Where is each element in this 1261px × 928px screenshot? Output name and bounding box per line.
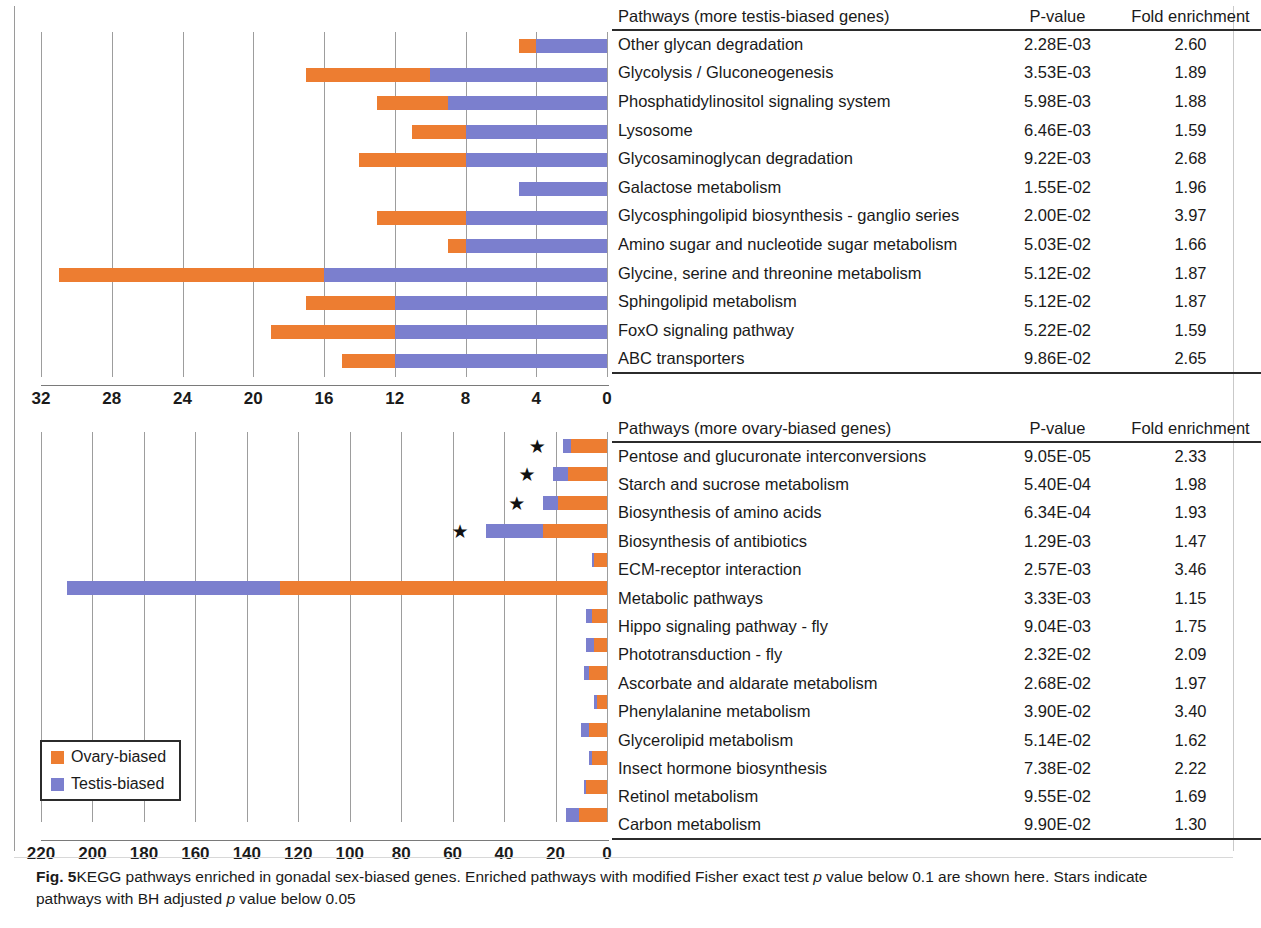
pathway-name-cell: FoxO signaling pathway xyxy=(612,316,995,345)
pathway-name-cell: Metabolic pathways xyxy=(612,584,995,612)
axis-tick-label: 20 xyxy=(244,389,263,409)
table-row: Galactose metabolism1.55E-021.96 xyxy=(612,173,1261,202)
ovary-biased-bar-segment xyxy=(589,723,607,737)
pvalue-cell: 5.40E-04 xyxy=(995,470,1118,498)
table-row: Biosynthesis of amino acids6.34E-041.93 xyxy=(612,499,1261,527)
pathway-name-cell: ABC transporters xyxy=(612,345,995,374)
pathway-name-cell: Phenylalanine metabolism xyxy=(612,698,995,726)
bar-row xyxy=(0,638,612,652)
fold-enrichment-cell: 2.68 xyxy=(1118,144,1261,173)
bar-row xyxy=(0,182,612,196)
legend-label: Ovary-biased xyxy=(71,748,166,766)
table-row: Retinol metabolism9.55E-021.69 xyxy=(612,783,1261,811)
caption-divider xyxy=(14,857,1233,858)
ovary-biased-bar-segment xyxy=(579,808,607,822)
ovary-biased-bar-segment xyxy=(543,524,607,538)
axis-tick-label: 220 xyxy=(27,844,55,864)
pathway-name-cell: Other glycan degradation xyxy=(612,30,995,59)
bar-row xyxy=(0,268,612,282)
table-row: Ascorbate and aldarate metabolism2.68E-0… xyxy=(612,669,1261,697)
ovary-biased-bar-segment xyxy=(448,239,466,253)
axis-tick-label: 180 xyxy=(130,844,158,864)
axis-tick-label: 8 xyxy=(461,389,470,409)
bar-row xyxy=(0,125,612,139)
table-row: Metabolic pathways3.33E-031.15 xyxy=(612,584,1261,612)
table-row: FoxO signaling pathway5.22E-021.59 xyxy=(612,316,1261,345)
caption-italic-p-2: p xyxy=(226,890,235,907)
fold-enrichment-cell: 3.40 xyxy=(1118,698,1261,726)
pathway-name-cell: Galactose metabolism xyxy=(612,173,995,202)
bottom-table-wrapper: Pathways (more ovary-biased genes) P-val… xyxy=(612,418,1233,840)
axis-tick-label: 140 xyxy=(233,844,261,864)
testis-biased-bar-segment xyxy=(519,182,607,196)
ovary-biased-bar-segment xyxy=(306,296,394,310)
caption-text-1: KEGG pathways enriched in gonadal sex-bi… xyxy=(76,868,813,885)
bar-row xyxy=(0,354,612,368)
fold-enrichment-cell: 1.15 xyxy=(1118,584,1261,612)
table-row: Phosphatidylinositol signaling system5.9… xyxy=(612,87,1261,116)
pvalue-cell: 2.00E-02 xyxy=(995,202,1118,231)
table-row: Insect hormone biosynthesis7.38E-022.22 xyxy=(612,754,1261,782)
testis-biased-bar-segment xyxy=(563,439,571,453)
table-row: Glycerolipid metabolism5.14E-021.62 xyxy=(612,726,1261,754)
pathway-name-cell: Amino sugar and nucleotide sugar metabol… xyxy=(612,230,995,259)
fold-enrichment-cell: 1.87 xyxy=(1118,259,1261,288)
fold-enrichment-cell: 1.66 xyxy=(1118,230,1261,259)
testis-biased-bar-segment xyxy=(581,723,589,737)
pathway-name-cell: ECM-receptor interaction xyxy=(612,556,995,584)
pvalue-cell: 2.32E-02 xyxy=(995,641,1118,669)
top-pathway-table: Pathways (more testis-biased genes) P-va… xyxy=(612,6,1261,374)
axis-tick-label: 0 xyxy=(602,844,611,864)
testis-biased-bar-segment xyxy=(486,524,543,538)
fold-enrichment-cell: 1.69 xyxy=(1118,783,1261,811)
testis-biased-bar-segment xyxy=(586,609,591,623)
testis-biased-bar-segment xyxy=(592,553,595,567)
legend-label: Testis-biased xyxy=(71,775,164,793)
top-axis-tick-labels: 322824201612840 xyxy=(0,389,612,415)
col-header-fold: Fold enrichment xyxy=(1118,418,1261,442)
fold-enrichment-cell: 1.30 xyxy=(1118,811,1261,839)
fold-enrichment-cell: 3.46 xyxy=(1118,556,1261,584)
testis-biased-bar-segment xyxy=(566,808,579,822)
axis-tick-label: 60 xyxy=(443,844,462,864)
x-axis-line xyxy=(41,385,609,386)
ovary-biased-bar-segment xyxy=(589,666,607,680)
pvalue-cell: 2.68E-02 xyxy=(995,669,1118,697)
fold-enrichment-cell: 1.59 xyxy=(1118,116,1261,145)
bar-row xyxy=(0,211,612,225)
ovary-biased-bar-segment xyxy=(558,496,607,510)
bar-row xyxy=(0,609,612,623)
col-header-pvalue: P-value xyxy=(995,418,1118,442)
col-header-pvalue: P-value xyxy=(995,6,1118,30)
pathway-name-cell: Glycosphingolipid biosynthesis - ganglio… xyxy=(612,202,995,231)
fold-enrichment-cell: 1.97 xyxy=(1118,669,1261,697)
pvalue-cell: 5.98E-03 xyxy=(995,87,1118,116)
table-row: Glycolysis / Gluconeogenesis3.53E-031.89 xyxy=(612,59,1261,88)
bottom-pathway-table: Pathways (more ovary-biased genes) P-val… xyxy=(612,418,1261,840)
pvalue-cell: 3.33E-03 xyxy=(995,584,1118,612)
table-row: Phototransduction - fly2.32E-022.09 xyxy=(612,641,1261,669)
testis-biased-bar-segment xyxy=(324,268,607,282)
top-table-body: Other glycan degradation2.28E-032.60Glyc… xyxy=(612,30,1261,373)
pathway-name-cell: Carbon metabolism xyxy=(612,811,995,839)
pvalue-cell: 6.46E-03 xyxy=(995,116,1118,145)
table-row: Hippo signaling pathway - fly9.04E-031.7… xyxy=(612,612,1261,640)
significance-star-icon: ★ xyxy=(518,465,535,484)
axis-tick-label: 16 xyxy=(315,389,334,409)
testis-biased-bar-segment xyxy=(543,496,558,510)
fold-enrichment-cell: 1.96 xyxy=(1118,173,1261,202)
pvalue-cell: 1.29E-03 xyxy=(995,527,1118,555)
axis-tick-label: 24 xyxy=(173,389,192,409)
pathway-name-cell: Pentose and glucuronate interconversions xyxy=(612,442,995,470)
ovary-biased-bar-segment xyxy=(412,125,465,139)
table-row: Lysosome6.46E-031.59 xyxy=(612,116,1261,145)
caption-text-3: value below 0.05 xyxy=(235,890,356,907)
ovary-biased-bar-segment xyxy=(59,268,324,282)
pathway-name-cell: Biosynthesis of antibiotics xyxy=(612,527,995,555)
axis-tick-label: 120 xyxy=(284,844,312,864)
table-row: ECM-receptor interaction2.57E-033.46 xyxy=(612,556,1261,584)
table-row: Other glycan degradation2.28E-032.60 xyxy=(612,30,1261,59)
table-row: Biosynthesis of antibiotics1.29E-031.47 xyxy=(612,527,1261,555)
pathway-name-cell: Lysosome xyxy=(612,116,995,145)
